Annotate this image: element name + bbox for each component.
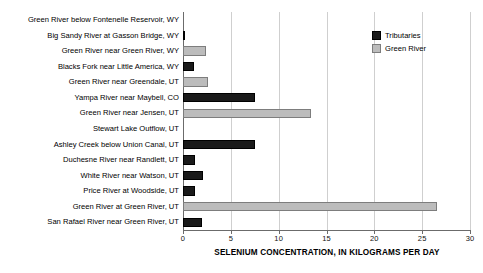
category-label: Green River at Green River, UT <box>0 199 179 215</box>
category-label: Stewart Lake Outflow, UT <box>0 121 179 137</box>
bar <box>183 31 185 40</box>
x-tick-label: 0 <box>181 234 185 243</box>
x-tick-label: 25 <box>418 234 427 243</box>
legend-item-tributaries: Tributaries <box>372 30 426 41</box>
gridline <box>231 12 232 230</box>
bar <box>183 93 255 102</box>
legend: Tributaries Green River <box>372 30 426 56</box>
legend-label-green-river: Green River <box>385 44 426 53</box>
category-label: Duchesne River near Randlett, UT <box>0 152 179 168</box>
x-tick-label: 20 <box>370 234 379 243</box>
x-tick-label: 30 <box>466 234 475 243</box>
category-label: Ashley Creek below Union Canal, UT <box>0 137 179 153</box>
gridline <box>279 12 280 230</box>
y-axis-line <box>183 12 184 231</box>
bar <box>183 62 194 71</box>
x-tick-label: 10 <box>274 234 283 243</box>
bar <box>183 140 255 149</box>
category-label: Green River near Greendale, UT <box>0 74 179 90</box>
legend-item-green-river: Green River <box>372 43 426 54</box>
category-label: White River near Watson, UT <box>0 168 179 184</box>
gridline <box>470 12 471 230</box>
selenium-concentration-bar-chart: 051015202530 Green River below Fontenell… <box>0 0 483 273</box>
category-label: Green River near Jensen, UT <box>0 105 179 121</box>
category-label: Big Sandy River at Gasson Bridge, WY <box>0 28 179 44</box>
bar <box>183 77 208 86</box>
legend-label-tributaries: Tributaries <box>385 31 421 40</box>
category-label: Yampa River near Maybell, CO <box>0 90 179 106</box>
legend-swatch-tributaries-icon <box>372 31 381 40</box>
category-label: Blacks Fork near Little America, WY <box>0 59 179 75</box>
bar <box>183 186 195 195</box>
category-label: Price River at Woodside, UT <box>0 183 179 199</box>
bar <box>183 46 206 55</box>
category-label: Green River below Fontenelle Reservoir, … <box>0 12 179 28</box>
legend-swatch-green-river-icon <box>372 44 381 53</box>
x-tick-label: 5 <box>229 234 233 243</box>
category-label: San Rafael River near Green River, UT <box>0 214 179 230</box>
gridline <box>327 12 328 230</box>
x-tick-label: 15 <box>322 234 331 243</box>
bar <box>183 202 437 211</box>
bar <box>183 171 203 180</box>
bar <box>183 109 311 118</box>
bar <box>183 155 195 164</box>
category-label: Green River near Green River, WY <box>0 43 179 59</box>
bar <box>183 218 202 227</box>
x-axis-title: SELENIUM CONCENTRATION, IN KILOGRAMS PER… <box>183 248 471 257</box>
